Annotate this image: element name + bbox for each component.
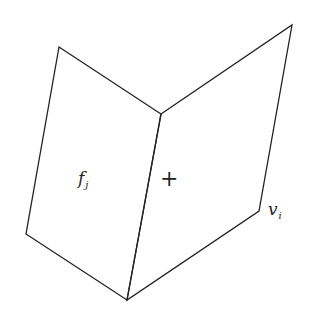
left-face [26, 47, 161, 300]
orientation-plus-sign: + [160, 166, 178, 191]
diagram-canvas: fj + vi [0, 0, 319, 317]
vertex-label: vi [268, 199, 282, 221]
face-label: fj [76, 168, 88, 190]
right-face [127, 25, 292, 300]
